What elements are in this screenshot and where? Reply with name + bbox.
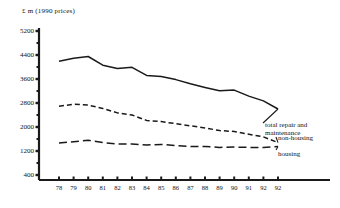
x-tick-label: 85: [154, 184, 168, 191]
chart-container: £ m (1990 prices) 5200440036002800200012…: [0, 0, 340, 208]
y-tick-label: 400: [8, 171, 34, 179]
series-label-line1: total repair and: [265, 121, 307, 129]
chart-plot-area: [0, 0, 340, 208]
series-line-non-housing: [59, 104, 278, 142]
x-tick-label: 82: [110, 184, 124, 191]
x-tick-label: 83: [125, 184, 139, 191]
series-label-housing: housing: [278, 150, 300, 158]
x-tick-label: 91: [242, 184, 256, 191]
series-line-total-repair-and-maintenance: [59, 57, 278, 110]
x-tick-label: 80: [81, 184, 95, 191]
x-tick-label: 79: [67, 184, 81, 191]
y-tick-label: 2000: [8, 123, 34, 131]
x-tick-label: 89: [213, 184, 227, 191]
series-line-housing: [59, 140, 278, 147]
x-tick-label: 86: [169, 184, 183, 191]
x-tick-label: 88: [198, 184, 212, 191]
x-tick-label: 90: [227, 184, 241, 191]
y-tick-label: 3600: [8, 75, 34, 83]
series-label-non-housing: non-housing: [278, 134, 313, 142]
x-tick-label: 78: [52, 184, 66, 191]
x-tick-label: 84: [140, 184, 154, 191]
y-tick-label: 5200: [8, 27, 34, 35]
x-tick-label: 81: [96, 184, 110, 191]
y-tick-label: 1200: [8, 147, 34, 155]
y-tick-label: 4400: [8, 51, 34, 59]
x-tick-label: 92: [271, 184, 285, 191]
x-tick-label: 87: [183, 184, 197, 191]
x-tick-label: 92: [256, 184, 270, 191]
y-tick-label: 2800: [8, 99, 34, 107]
